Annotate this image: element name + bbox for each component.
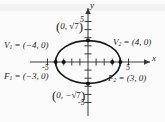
label-vertex-2: V2 = (4, 0) (113, 38, 151, 48)
label-vertex-2-value: = (4, 0) (121, 37, 151, 47)
label-covertex-bottom-text: 0, − (56, 90, 71, 100)
x-axis-arrow (144, 59, 150, 65)
point-v2 (118, 60, 122, 64)
label-focus-1-value: = (−3, 0) (12, 71, 48, 81)
x-tick-label-5: 5 (126, 64, 130, 72)
label-covertex-top-close-paren: ) (79, 19, 83, 34)
point-covertex-bottom (86, 81, 90, 85)
y-axis-label: y (90, 1, 94, 10)
label-vertex-1-value: = (−4, 0) (12, 40, 48, 50)
point-v1 (54, 60, 58, 64)
label-focus-2-value: = (3, 0) (116, 73, 146, 83)
label-focus-1: F1 = (−3, 0) (4, 72, 48, 82)
label-covertex-top: (0, √7) (56, 20, 83, 33)
label-covertex-bottom-radical: √7 (71, 90, 80, 100)
x-axis-label: x (152, 54, 156, 63)
point-covertex-top (86, 39, 90, 43)
label-covertex-top-radical: √7 (69, 21, 78, 31)
label-covertex-bottom-close-paren: ) (81, 88, 85, 103)
label-focus-2: F2 = (3, 0) (108, 74, 146, 84)
label-covertex-top-text: 0, (60, 21, 69, 31)
point-f2 (110, 60, 114, 64)
label-vertex-1: V1 = (−4, 0) (4, 41, 48, 51)
point-f1 (62, 60, 66, 64)
figure-canvas: x y -5 5 5 -5 V1 = (−4, 0) V2 = (4, 0) F… (0, 0, 165, 122)
label-covertex-bottom: (0, −√7) (52, 89, 85, 102)
